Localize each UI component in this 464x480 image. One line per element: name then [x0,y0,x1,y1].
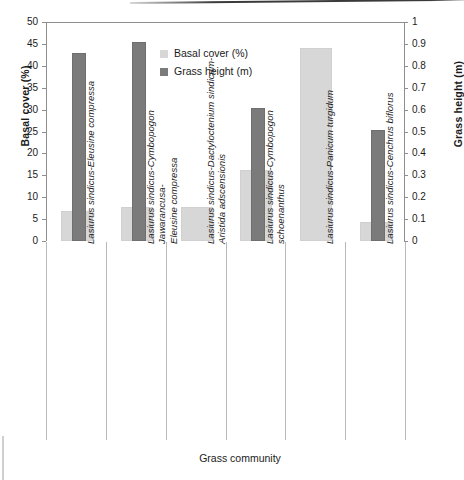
y-axis-right-tick-label: 0.3 [412,170,442,180]
y-axis-right-tick [404,132,408,133]
y-axis-left-tick [42,219,46,220]
y-axis-right-tick-label: 0.5 [412,127,442,137]
y-axis-left-tick [42,88,46,89]
y-axis-left-tick-label: 45 [12,39,38,49]
y-axis-right-title: Grass height (m) [452,44,464,164]
y-axis-left-tick [42,22,46,23]
x-axis-title: Grass community [150,452,330,464]
y-axis-right-tick [404,219,408,220]
y-axis-left-tick [42,197,46,198]
y-axis-right-tick-label: 0.2 [412,192,442,202]
y-axis-right-tick-label: 0.4 [412,148,442,158]
y-axis-left-line [46,22,47,241]
category-separator [405,242,406,440]
y-axis-right-tick [404,88,408,89]
y-axis-left-tick-label: 10 [12,192,38,202]
y-axis-right-tick-label: 0.7 [412,83,442,93]
x-axis-category-label: Lasiurus sindicus-Dactyloctenium sindicu… [205,56,228,244]
legend-item: Basal cover (%) [160,48,252,59]
y-axis-left-tick [42,66,46,67]
bar-grass-height [371,130,385,242]
y-axis-right-tick-label: 1 [412,17,442,27]
legend-swatch-icon [160,50,168,58]
category-separator [106,242,107,440]
y-axis-right-tick-label: 0.6 [412,105,442,115]
x-axis-category-label: Lasiurus sindicus-Cymbopogon Jawarancusa… [145,56,179,244]
category-separator [226,242,227,440]
x-axis-category-label: Lasiurus sindicus-Cymbopogon schoenanthu… [264,56,287,244]
bar-grass-height [132,42,146,241]
y-axis-right-tick [404,153,408,154]
y-axis-right-tick-label: 0.9 [412,39,442,49]
y-axis-left-tick [42,132,46,133]
scan-artifact-left-rule [2,436,4,480]
y-axis-left-tick-label: 30 [12,105,38,115]
y-axis-right-tick-label: 0.8 [412,61,442,71]
y-axis-left-tick-label: 0 [12,236,38,246]
y-axis-right-tick [404,175,408,176]
legend-item: Grass height (m) [160,66,252,77]
y-axis-right-tick [404,110,408,111]
category-separator [285,242,286,440]
y-axis-right-tick [404,197,408,198]
y-axis-left-tick-label: 5 [12,214,38,224]
y-axis-left-tick [42,110,46,111]
x-axis-line [46,22,405,23]
chart-legend: Basal cover (%)Grass height (m) [160,48,252,84]
y-axis-right-tick [404,22,408,23]
category-separator [166,242,167,440]
y-axis-left-tick-label: 40 [12,61,38,71]
y-axis-left-tick-label: 15 [12,170,38,180]
x-axis-category-label: Lasiurus sindicus-Panicum turgidum [324,56,335,244]
category-separator [46,242,47,440]
x-axis-category-label: Lasiurus sindicus-Eleusine compressa [85,56,96,244]
y-axis-right-tick-label: 0 [412,236,442,246]
category-label-area: Lasiurus sindicus-Eleusine compressaLasi… [46,242,405,452]
y-axis-left-tick-label: 20 [12,148,38,158]
y-axis-left-tick [42,153,46,154]
category-separator [345,242,346,440]
y-axis-right-tick [404,66,408,67]
y-axis-right-tick [404,44,408,45]
bar-grass-height [72,53,86,241]
y-axis-left-tick-label: 35 [12,83,38,93]
legend-swatch-icon [160,68,168,76]
y-axis-right-tick-label: 0.1 [412,214,442,224]
y-axis-left-tick [42,175,46,176]
y-axis-left-tick [42,44,46,45]
y-axis-left-tick-label: 25 [12,127,38,137]
x-axis-category-label: Lasiurus sindicus-Cenchrus biflorus [384,56,395,244]
legend-label: Basal cover (%) [174,48,248,59]
y-axis-left-tick-label: 50 [12,17,38,27]
scan-artifact-top-rule [130,0,464,4]
legend-label: Grass height (m) [174,66,252,77]
chart-figure: Basal cover (%) Grass height (m) Grass c… [0,0,464,480]
